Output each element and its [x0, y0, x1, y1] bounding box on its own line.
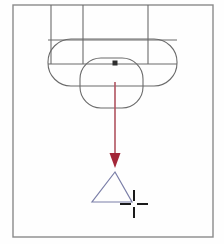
canvas-background [0, 0, 224, 244]
cad-drawing-svg [0, 0, 224, 244]
snap-point-marker[interactable] [113, 61, 118, 66]
drawing-canvas[interactable] [0, 0, 224, 244]
